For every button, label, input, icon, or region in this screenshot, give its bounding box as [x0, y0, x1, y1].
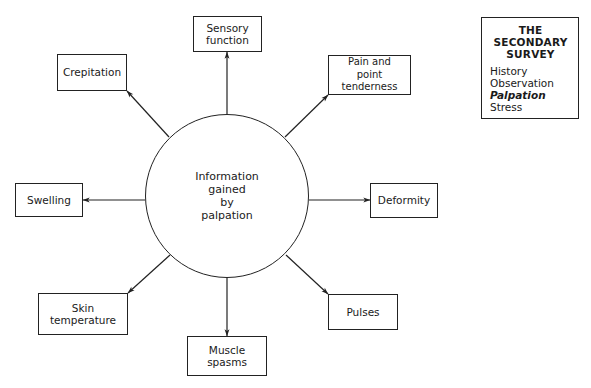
node-pulses: Pulses	[328, 294, 398, 330]
edge-pulses	[286, 255, 328, 294]
node-label: Skin temperature	[50, 302, 116, 327]
node-label: Swelling	[27, 194, 71, 207]
node-label: Deformity	[378, 194, 430, 207]
panel-title: THE SECONDARY SURVEY	[490, 24, 571, 60]
edge-crepitation	[127, 91, 169, 137]
step-palpation: Palpation	[490, 89, 571, 101]
step-history: History	[490, 65, 571, 77]
node-pain-tenderness: Pain and point tenderness	[328, 55, 411, 95]
edge-skin	[128, 255, 170, 293]
step-stress: Stress	[490, 101, 571, 113]
node-muscle-spasms: Muscle spasms	[187, 336, 267, 376]
center-hub: Information gained by palpation	[145, 114, 309, 278]
node-sensory-function: Sensory function	[193, 16, 262, 52]
node-label: Pain and point tenderness	[329, 56, 410, 94]
step-observation: Observation	[490, 77, 571, 89]
node-deformity: Deformity	[370, 183, 438, 218]
node-skin-temperature: Skin temperature	[38, 293, 128, 335]
node-swelling: Swelling	[15, 183, 83, 217]
node-label: Pulses	[346, 306, 379, 319]
survey-steps-list: History Observation Palpation Stress	[490, 65, 571, 113]
node-label: Muscle spasms	[207, 344, 247, 369]
secondary-survey-panel: THE SECONDARY SURVEY History Observation…	[481, 17, 579, 119]
node-label: Crepitation	[63, 66, 121, 79]
center-label: Information gained by palpation	[195, 170, 259, 222]
edge-pain	[285, 95, 328, 137]
node-crepitation: Crepitation	[57, 54, 127, 91]
node-label: Sensory function	[206, 22, 249, 47]
